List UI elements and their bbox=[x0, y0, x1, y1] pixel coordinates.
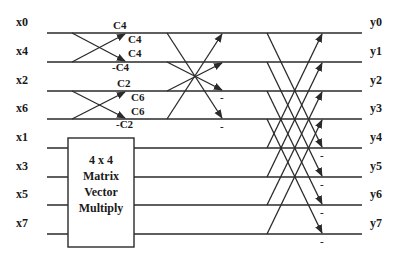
output-label: y1 bbox=[370, 44, 382, 58]
coefficient-label: C4 bbox=[128, 47, 142, 59]
minus-sign: - bbox=[320, 178, 324, 190]
input-label: x3 bbox=[16, 159, 28, 173]
dct-flow-graph: x0 x4 x2 x6 x1 x3 x5 x7 y0 y1 y2 y3 y4 y… bbox=[0, 0, 402, 262]
stage2-butterflies: - - bbox=[167, 33, 224, 132]
minus-sign: - bbox=[220, 91, 224, 103]
stage3-butterflies: - - - - bbox=[267, 33, 324, 247]
output-label: y2 bbox=[370, 73, 382, 87]
block-line: 4 x 4 bbox=[89, 153, 113, 167]
input-label: x6 bbox=[16, 101, 28, 115]
input-label: x5 bbox=[16, 187, 28, 201]
output-label: y7 bbox=[370, 216, 382, 230]
output-label: y3 bbox=[370, 101, 382, 115]
block-line: Matrix bbox=[83, 169, 119, 183]
input-label: x7 bbox=[16, 216, 28, 230]
input-label: x4 bbox=[16, 44, 28, 58]
output-label: y0 bbox=[370, 15, 382, 29]
minus-sign: - bbox=[320, 235, 324, 247]
output-label: y4 bbox=[370, 130, 382, 144]
coefficient-label: -C4 bbox=[112, 61, 130, 73]
butterfly-edge bbox=[72, 91, 125, 118]
output-label: y5 bbox=[370, 159, 382, 173]
block-line: Vector bbox=[84, 185, 118, 199]
coefficient-label: -C2 bbox=[116, 118, 134, 130]
output-label: y6 bbox=[370, 187, 382, 201]
coefficient-label: C2 bbox=[117, 77, 131, 89]
coefficient-label: C6 bbox=[131, 91, 145, 103]
minus-sign: - bbox=[320, 206, 324, 218]
input-labels: x0 x4 x2 x6 x1 x3 x5 x7 bbox=[16, 15, 28, 230]
input-label: x0 bbox=[16, 15, 28, 29]
output-labels: y0 y1 y2 y3 y4 y5 y6 y7 bbox=[370, 15, 382, 230]
minus-sign: - bbox=[220, 120, 224, 132]
butterfly-edge bbox=[72, 33, 125, 61]
stage1-butterflies: C4 C4 C4 -C4 C2 C6 C6 -C2 bbox=[72, 19, 145, 130]
butterfly-edge bbox=[72, 92, 125, 119]
coefficient-label: C4 bbox=[128, 33, 142, 45]
coefficient-label: C6 bbox=[131, 105, 145, 117]
coefficient-label: C4 bbox=[113, 19, 127, 31]
minus-sign: - bbox=[320, 149, 324, 161]
input-label: x1 bbox=[16, 130, 28, 144]
input-label: x2 bbox=[16, 73, 28, 87]
butterfly-edge bbox=[72, 34, 125, 62]
block-line: Multiply bbox=[79, 201, 124, 215]
matrix-vector-multiply-block: 4 x 4 Matrix Vector Multiply bbox=[68, 138, 134, 247]
